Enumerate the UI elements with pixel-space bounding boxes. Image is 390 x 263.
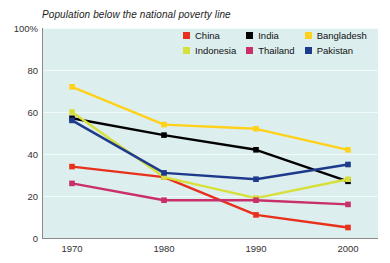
legend-label: Bangladesh (317, 31, 367, 41)
legend-swatch-icon (183, 47, 190, 54)
legend-swatch-icon (305, 32, 312, 39)
legend-label: Thailand (258, 46, 294, 56)
gridline (42, 196, 378, 197)
legend-swatch-icon (246, 32, 253, 39)
y-axis: 020406080100% (0, 0, 38, 263)
y-tick-label: 0 (33, 233, 38, 244)
legend-item-pakistan[interactable]: Pakistan (305, 46, 367, 56)
x-tick-label: 2000 (337, 243, 358, 254)
chart-figure: Population below the national poverty li… (0, 0, 390, 263)
legend-label: China (195, 31, 220, 41)
y-axis-line (42, 28, 43, 239)
legend-item-india[interactable]: India (246, 31, 294, 41)
legend-swatch-icon (246, 47, 253, 54)
y-tick-label: 100% (14, 23, 38, 34)
legend-swatch-icon (183, 32, 190, 39)
x-axis-line (42, 238, 378, 239)
gridline (42, 70, 378, 71)
legend-item-indonesia[interactable]: Indonesia (183, 46, 236, 56)
legend-swatch-icon (305, 47, 312, 54)
x-tick-label: 1980 (153, 243, 174, 254)
y-tick-label: 80 (27, 65, 38, 76)
gridline (42, 28, 378, 29)
legend-label: Pakistan (317, 46, 353, 56)
legend-item-china[interactable]: China (183, 31, 236, 41)
y-tick-label: 60 (27, 107, 38, 118)
chart-title: Population below the national poverty li… (42, 9, 231, 20)
gridline (42, 154, 378, 155)
legend-item-thailand[interactable]: Thailand (246, 46, 294, 56)
y-tick-label: 40 (27, 149, 38, 160)
legend-item-bangladesh[interactable]: Bangladesh (305, 31, 367, 41)
gridline (42, 112, 378, 113)
legend-label: India (258, 31, 279, 41)
chart-legend: ChinaIndiaBangladeshIndonesiaThailandPak… (183, 31, 367, 55)
legend-label: Indonesia (195, 46, 236, 56)
plot-area (42, 28, 378, 238)
y-tick-label: 20 (27, 191, 38, 202)
x-tick-label: 1970 (61, 243, 82, 254)
x-tick-label: 1990 (245, 243, 266, 254)
